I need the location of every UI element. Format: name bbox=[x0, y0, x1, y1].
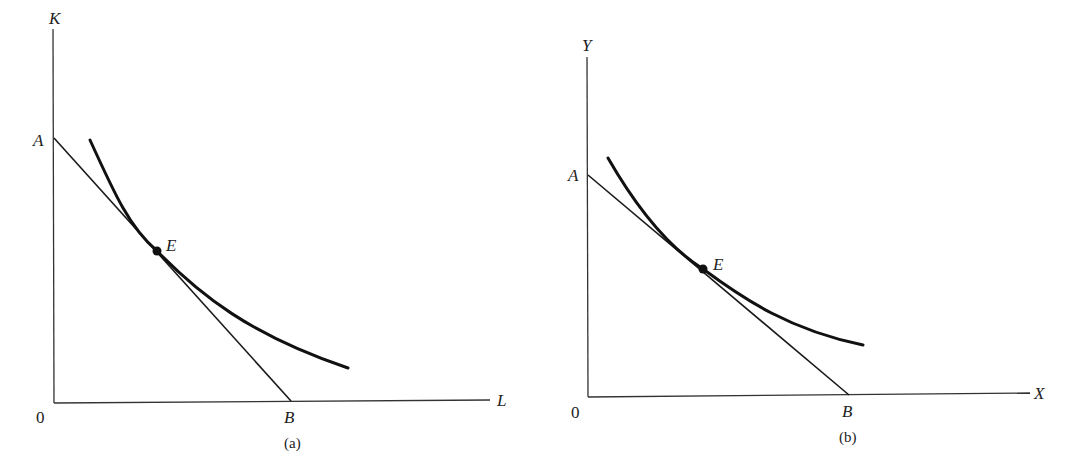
panel-caption: (a) bbox=[284, 435, 301, 452]
x-axis bbox=[588, 393, 1030, 397]
diagram-canvas: K L 0 A B E (a) Y X 0 A B E (b) bbox=[0, 0, 1073, 472]
x-axis-label: L bbox=[496, 391, 506, 410]
y-axis bbox=[587, 57, 588, 397]
panel-caption: (b) bbox=[839, 429, 857, 446]
origin-label: 0 bbox=[36, 408, 45, 427]
tangency-point-e bbox=[153, 247, 162, 256]
tangency-point-e bbox=[699, 265, 708, 274]
point-a-label: A bbox=[567, 166, 579, 185]
x-axis-label: X bbox=[1033, 384, 1045, 403]
budget-line-ab bbox=[588, 175, 849, 395]
point-a-label: A bbox=[32, 131, 44, 150]
point-e-label: E bbox=[165, 236, 177, 255]
y-axis-label: Y bbox=[582, 36, 593, 55]
origin-label: 0 bbox=[571, 403, 580, 422]
y-axis-label: K bbox=[48, 9, 62, 28]
x-axis bbox=[54, 400, 490, 403]
indifference-curve bbox=[608, 158, 863, 345]
panel-b: Y X 0 A B E (b) bbox=[567, 36, 1045, 446]
panel-a: K L 0 A B E (a) bbox=[32, 9, 506, 452]
point-e-label: E bbox=[712, 255, 724, 274]
y-axis bbox=[53, 29, 54, 403]
point-b-label: B bbox=[842, 402, 853, 421]
point-b-label: B bbox=[284, 408, 295, 427]
indifference-curve bbox=[90, 140, 348, 368]
budget-line-ab bbox=[54, 138, 291, 401]
